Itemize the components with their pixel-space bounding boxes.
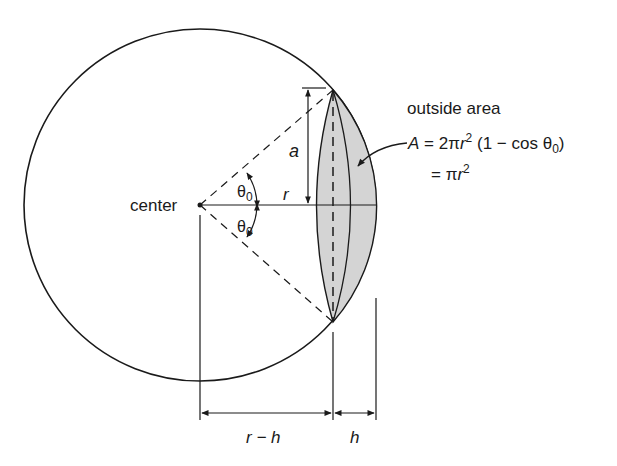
a-label: a <box>289 141 299 161</box>
r-label: r <box>283 185 290 204</box>
spherical-cap-diagram: center a r θ0 θ0 r − h h outside area A … <box>0 0 617 466</box>
outside-area-title: outside area <box>407 99 501 118</box>
theta-lower-label: θ0 <box>237 218 253 239</box>
radius-dashed-lower <box>200 205 333 322</box>
cap-shaded-region <box>317 90 377 322</box>
area-equation-2: = πr2 <box>431 162 470 184</box>
area-equation-1: A = 2πr2 (1 − cos θ0) <box>407 131 564 156</box>
radius-dashed-upper <box>200 90 333 205</box>
h-label: h <box>350 428 359 447</box>
r-minus-h-label: r − h <box>246 428 281 447</box>
center-label: center <box>130 196 178 215</box>
theta-upper-label: θ0 <box>237 183 253 204</box>
center-point <box>198 203 203 208</box>
